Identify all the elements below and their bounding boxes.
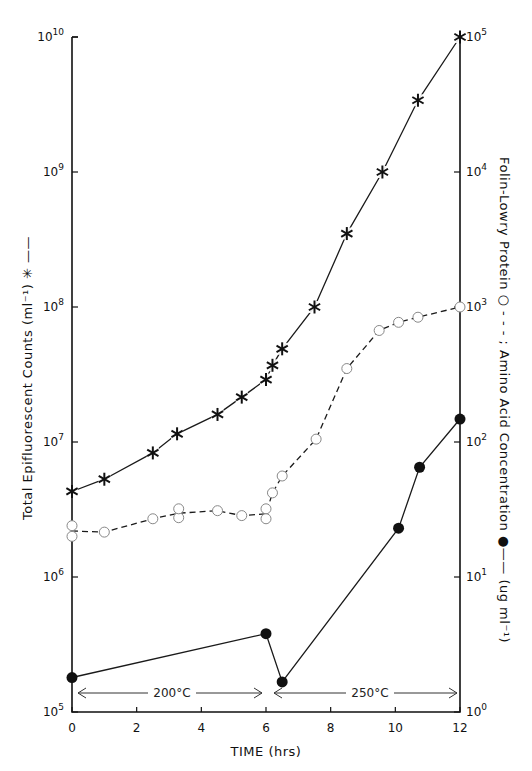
open-circle-marker-icon <box>67 531 77 541</box>
y-left-tick-label: 106 <box>43 567 64 584</box>
y-right-tick-label: 101 <box>466 567 487 584</box>
asterisk-marker-icon <box>260 373 272 386</box>
asterisk-marker-icon <box>376 166 388 179</box>
y-right-tick-label: 104 <box>466 162 487 179</box>
asterisk-marker-icon <box>454 31 466 44</box>
y-left-tick-label: 105 <box>43 702 64 719</box>
y-axis-right-title: Folin-Lowry Protein ○ - - - ; Amino Acid… <box>497 157 512 643</box>
asterisk-marker-icon <box>212 408 224 421</box>
series-line <box>72 307 460 532</box>
open-circle-marker-icon <box>394 317 404 327</box>
x-tick-label: 8 <box>327 721 335 735</box>
y-left-tick-label: 109 <box>43 162 64 179</box>
filled-circle-marker-icon <box>393 523 404 534</box>
open-circle-marker-icon <box>311 434 321 444</box>
temp-label-250: 250°C <box>351 686 388 700</box>
filled-circle-marker-icon <box>414 462 425 473</box>
filled-circle-marker-icon <box>67 672 78 683</box>
series-line <box>72 419 460 682</box>
filled-circle-marker-icon <box>277 676 288 687</box>
open-circle-marker-icon <box>67 521 77 531</box>
asterisk-marker-icon <box>98 473 110 486</box>
y-right-tick-label: 100 <box>466 702 487 719</box>
asterisk-marker-icon <box>147 446 159 459</box>
series-line <box>72 37 460 492</box>
open-circle-marker-icon <box>342 364 352 374</box>
open-circle-marker-icon <box>413 312 423 322</box>
filled-circle-marker-icon <box>261 628 272 639</box>
asterisk-marker-icon <box>412 94 424 107</box>
x-tick-label: 2 <box>133 721 141 735</box>
x-tick-label: 6 <box>262 721 270 735</box>
open-circle-marker-icon <box>213 506 223 516</box>
x-tick-label: 10 <box>388 721 403 735</box>
chart: 0246810121051001061011071021081031091041… <box>0 0 532 771</box>
open-circle-marker-icon <box>267 488 277 498</box>
x-axis-title: TIME (hrs) <box>230 744 302 759</box>
asterisk-marker-icon <box>276 342 288 355</box>
series-0 <box>66 31 466 498</box>
x-tick-label: 0 <box>68 721 76 735</box>
y-left-tick-label: 108 <box>43 297 64 314</box>
open-circle-marker-icon <box>237 511 247 521</box>
y-right-tick-label: 105 <box>466 27 487 44</box>
annotations: 200°C 250°C <box>78 684 457 700</box>
open-circle-marker-icon <box>374 325 384 335</box>
asterisk-marker-icon <box>236 391 248 404</box>
filled-circle-marker-icon <box>455 414 466 425</box>
y-left-tick-label: 1010 <box>37 27 64 44</box>
open-circle-marker-icon <box>277 471 287 481</box>
temp-label-200: 200°C <box>153 686 190 700</box>
open-circle-marker-icon <box>148 514 158 524</box>
open-circle-marker-icon <box>261 504 271 514</box>
asterisk-marker-icon <box>309 301 321 314</box>
open-circle-marker-icon <box>261 514 271 524</box>
open-circle-marker-icon <box>99 527 109 537</box>
series-2 <box>67 414 466 688</box>
asterisk-marker-icon <box>66 485 78 498</box>
asterisk-marker-icon <box>341 227 353 240</box>
series-1 <box>67 302 465 541</box>
y-left-tick-label: 107 <box>43 432 64 449</box>
y-axis-left-title: Total Epifluorescent Counts (ml⁻¹) ✳ —— <box>20 236 35 521</box>
series-layer <box>66 31 466 688</box>
x-tick-label: 4 <box>198 721 206 735</box>
open-circle-marker-icon <box>455 302 465 312</box>
open-circle-marker-icon <box>174 504 184 514</box>
asterisk-marker-icon <box>171 427 183 440</box>
y-right-tick-label: 102 <box>466 432 487 449</box>
y-right-tick-label: 103 <box>466 297 487 314</box>
x-tick-label: 12 <box>452 721 467 735</box>
asterisk-marker-icon <box>266 359 278 372</box>
